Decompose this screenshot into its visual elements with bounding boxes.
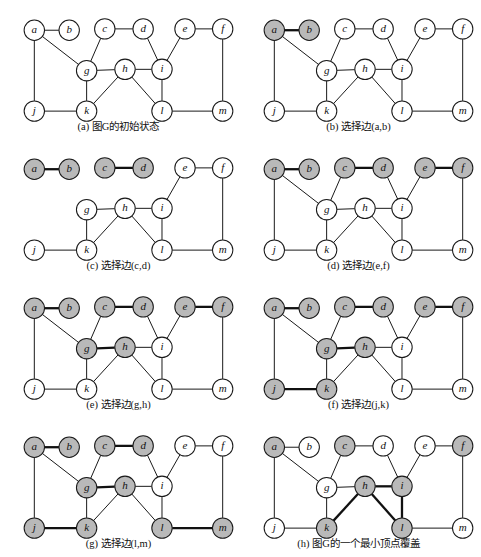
node-e: e [175,158,195,178]
panel-caption-h: (h) 图G的一个最小顶点覆盖 [242,535,475,550]
node-d: d [373,436,393,456]
node-f: f [212,19,232,39]
caption-prefix: (g) [86,538,101,549]
node-label-a: a [32,162,38,174]
panel-caption-f: (f) 选择边(j,k) [242,396,475,411]
node-label-c: c [342,161,347,173]
node-b: b [59,20,79,40]
node-label-c: c [342,22,347,34]
node-c: c [335,436,355,456]
node-g: g [316,60,336,80]
graph-c: abcdefghijklm [2,141,235,261]
node-b: b [59,298,79,318]
edge-d-i [147,455,157,477]
node-label-d: d [140,161,146,173]
node-g: g [316,338,336,358]
edge-a-g [42,314,78,342]
edge-h-k [94,494,119,521]
node-label-c: c [342,439,347,451]
node-label-c: c [102,161,107,173]
node-b: b [299,159,319,179]
edge-e-i [407,316,420,339]
node-label-b: b [66,162,72,174]
graph-d: abcdefghijklm [242,141,475,261]
edge-c-g [91,38,101,61]
node-label-m: m [219,104,227,116]
edge-h-k [334,355,359,382]
node-label-e: e [183,300,188,312]
node-label-d: d [140,22,146,34]
edge-d-i [387,38,397,60]
figure-sheet: abcdefghijklm(a) 图G的初始状态abcdefghijklm(b)… [0,0,481,557]
node-label-h: h [122,62,128,74]
graph-g: abcdefghijklm [2,419,235,539]
node-label-m: m [219,243,227,255]
node-d: d [133,158,153,178]
node-b: b [299,20,319,40]
caption-text: 选择边(a,b) [341,121,391,132]
node-label-c: c [342,300,347,312]
node-a: a [264,20,284,40]
node-label-h: h [362,62,368,74]
node-i: i [152,337,172,357]
edge-e-i [167,455,180,478]
node-g: g [76,199,96,219]
edge-c-g [331,455,341,478]
edge-h-l [372,216,395,243]
edge-d-i [387,316,397,338]
edge-d-i [147,316,157,338]
node-e: e [175,19,195,39]
edge-h-k [334,216,359,243]
node-f: f [452,436,472,456]
node-a: a [24,298,44,318]
edge-e-i [167,316,180,339]
node-label-b: b [66,301,72,313]
edge-g-h [337,348,355,349]
edge-g-h [337,209,355,210]
node-h: h [355,476,375,496]
node-i: i [392,337,412,357]
node-e: e [415,19,435,39]
panel-g: abcdefghijklm(g) 选择边(l,m) [2,419,235,557]
edge-h-k [94,216,119,243]
node-i: i [392,198,412,218]
node-e: e [415,436,435,456]
node-g: g [76,338,96,358]
edge-e-i [407,177,420,200]
node-g: g [76,60,96,80]
node-b: b [299,298,319,318]
edge-h-k [334,77,359,104]
node-e: e [175,436,195,456]
node-f: f [212,297,232,317]
caption-text: 图G的初始状态 [92,121,160,132]
edge-c-g [331,38,341,61]
node-c: c [95,19,115,39]
node-d: d [133,436,153,456]
node-label-g: g [84,203,90,215]
caption-prefix: (a) [78,121,92,132]
node-label-d: d [380,439,386,451]
node-label-g: g [84,342,90,354]
node-g: g [76,477,96,497]
node-label-m: m [459,521,467,533]
node-label-b: b [306,162,312,174]
graph-e: abcdefghijklm [2,280,235,400]
node-i: i [392,59,412,79]
node-label-g: g [324,64,330,76]
node-c: c [335,158,355,178]
node-i: i [152,59,172,79]
caption-prefix: (d) [327,260,342,271]
panel-caption-a: (a) 图G的初始状态 [2,118,235,133]
graph-a: abcdefghijklm [2,2,235,122]
node-label-g: g [84,481,90,493]
node-label-c: c [102,22,107,34]
panel-caption-g: (g) 选择边(l,m) [2,535,235,550]
node-label-h: h [122,479,128,491]
node-f: f [212,158,232,178]
node-label-i: i [160,62,163,74]
caption-prefix: (h) [297,538,312,549]
node-label-a: a [32,440,38,452]
node-label-b: b [306,23,312,35]
edge-c-g [91,316,101,339]
node-label-h: h [362,201,368,213]
